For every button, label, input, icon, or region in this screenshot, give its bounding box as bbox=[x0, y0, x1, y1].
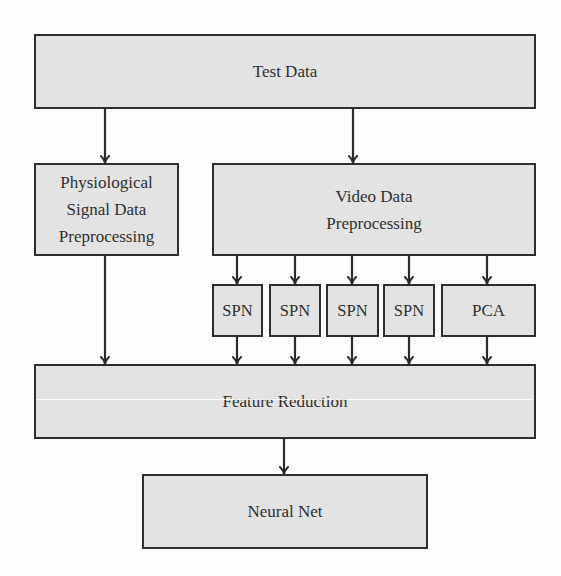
neural-net-label: Neural Net bbox=[247, 498, 322, 525]
spn-box-2: SPN bbox=[269, 284, 321, 337]
pca-label: PCA bbox=[472, 297, 505, 324]
spn-label-2: SPN bbox=[280, 297, 310, 324]
physiological-signal-preprocessing-label: Physiological Signal Data Preprocessing bbox=[59, 169, 154, 250]
video-data-preprocessing-label: Video Data Preprocessing bbox=[326, 183, 421, 237]
pca-box: PCA bbox=[441, 284, 536, 337]
spn-label-4: SPN bbox=[394, 297, 424, 324]
feature-reduction-label: Feature Reduction bbox=[222, 388, 347, 415]
diagram-canvas: Test Data Physiological Signal Data Prep… bbox=[0, 0, 561, 576]
spn-box-1: SPN bbox=[212, 284, 263, 337]
video-data-preprocessing-box: Video Data Preprocessing bbox=[212, 163, 536, 256]
neural-net-box: Neural Net bbox=[142, 474, 428, 549]
spn-box-4: SPN bbox=[383, 284, 435, 337]
spn-label-1: SPN bbox=[222, 297, 252, 324]
feature-reduction-box: Feature Reduction bbox=[34, 364, 536, 439]
test-data-label: Test Data bbox=[253, 58, 317, 85]
physiological-signal-preprocessing-box: Physiological Signal Data Preprocessing bbox=[34, 163, 179, 256]
spn-label-3: SPN bbox=[337, 297, 367, 324]
test-data-box: Test Data bbox=[34, 34, 536, 109]
scan-artifact-line bbox=[36, 399, 533, 400]
spn-box-3: SPN bbox=[326, 284, 379, 337]
